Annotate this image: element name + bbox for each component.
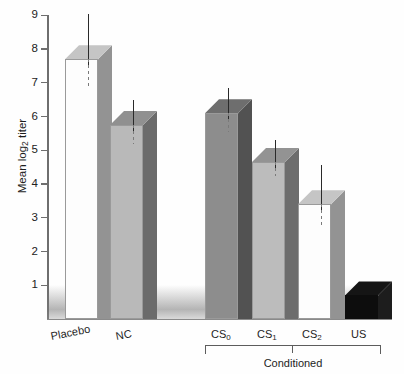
x-label-text: CS	[211, 328, 226, 340]
x-label-us: US	[351, 328, 366, 340]
error-bar-lower-dashed	[228, 113, 229, 132]
x-label-nc: NC	[115, 327, 133, 342]
bracket-label: Conditioned	[205, 357, 381, 369]
y-tick-label: 9	[0, 9, 38, 20]
y-tick-label: 1	[0, 279, 38, 290]
bracket-right-tick	[380, 345, 381, 354]
plot-area	[47, 15, 392, 319]
bar-cs0[interactable]	[205, 113, 238, 319]
bar-front-face	[205, 113, 238, 319]
bar-side-face	[331, 190, 345, 319]
figure-container: Mean log2 titer 123456789 PlaceboNCCS0CS…	[0, 0, 404, 374]
y-tick-label: 5	[0, 144, 38, 155]
x-label-text: US	[351, 328, 366, 340]
x-label-text: Placebo	[50, 323, 91, 342]
error-bar-lower-dashed	[133, 125, 134, 144]
bar-side-face	[143, 111, 157, 319]
y-tick-label: 6	[0, 111, 38, 122]
x-label-text: NC	[115, 327, 133, 342]
bar-front-face	[65, 59, 98, 319]
bar-us[interactable]	[345, 295, 378, 319]
bar-front-face	[345, 295, 378, 319]
x-label-placebo: Placebo	[50, 323, 91, 342]
bar-front-face	[110, 125, 143, 319]
y-tick-label: 4	[0, 178, 38, 189]
bracket-left-tick	[205, 345, 206, 354]
y-axis-title-post: titer	[16, 119, 28, 141]
bar-side-face	[285, 148, 299, 319]
bar-placebo[interactable]	[65, 59, 98, 319]
x-label-subscript: 1	[272, 333, 276, 342]
bar-nc[interactable]	[110, 125, 143, 319]
x-label-cs1: CS1	[257, 328, 277, 340]
x-label-subscript: 0	[226, 333, 230, 342]
bar-cs1[interactable]	[252, 162, 285, 319]
y-tick-label: 3	[0, 212, 38, 223]
x-label-text: CS	[302, 328, 317, 340]
x-label-cs0: CS0	[211, 328, 231, 340]
bar-front-face	[298, 204, 331, 319]
y-tick-label: 2	[0, 246, 38, 257]
y-tick-label: 8	[0, 43, 38, 54]
x-label-subscript: 2	[317, 333, 321, 342]
bracket-center-tick	[292, 345, 293, 353]
x-label-text: CS	[257, 328, 272, 340]
bar-cs2[interactable]	[298, 204, 331, 319]
bar-front-face	[252, 162, 285, 319]
error-bar-lower-dashed	[275, 162, 276, 176]
y-axis-title: Mean log2 titer	[16, 86, 28, 226]
error-bar-lower-dashed	[321, 204, 322, 226]
x-label-cs2: CS2	[302, 328, 322, 340]
y-tick-label: 7	[0, 77, 38, 88]
bar-side-face	[238, 99, 252, 319]
error-bar-lower-dashed	[88, 59, 89, 88]
